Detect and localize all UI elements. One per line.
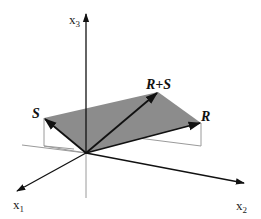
axis-x2 [86,153,244,183]
axis-x2-label: x2 [236,198,247,215]
axis-x3-label: x3 [69,12,81,29]
axis-x1 [17,153,86,191]
axis-x1-label: x1 [13,197,24,214]
vector-R-plus-S-label: R+S [145,77,171,92]
vector-R-label: R [200,109,210,124]
vector-S-label: S [32,106,40,121]
vector-diagram: x3 x2 x1 S R+S R [0,0,261,219]
